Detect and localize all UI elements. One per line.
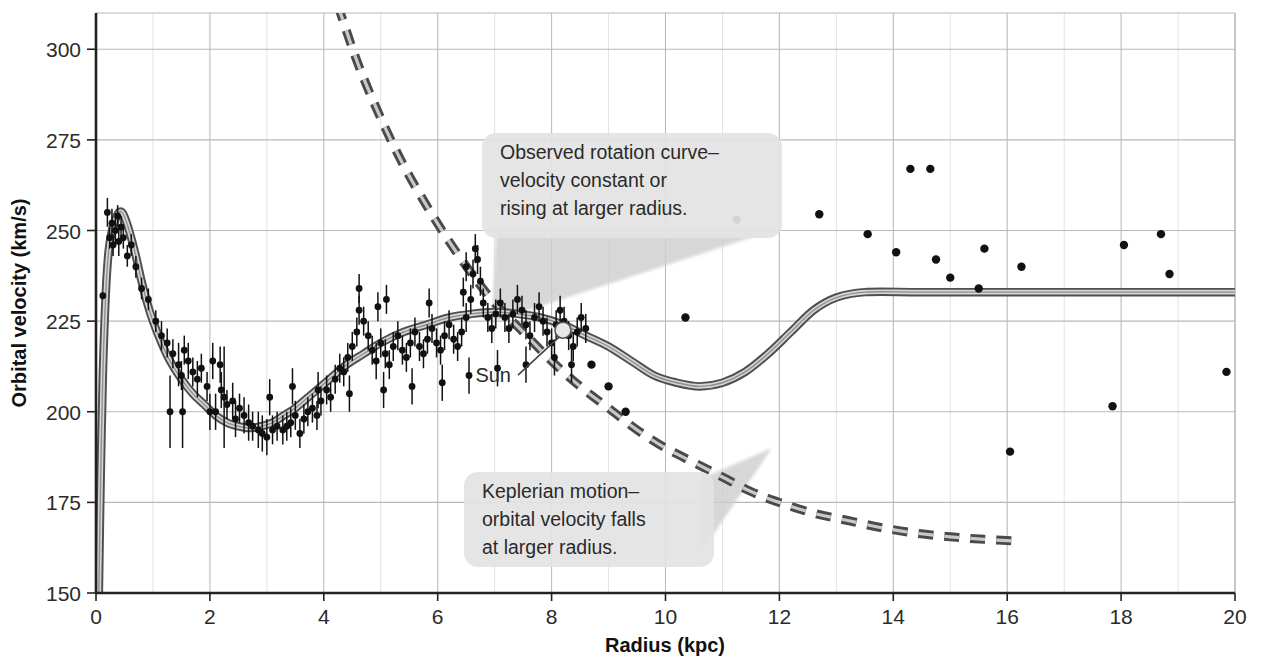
- data-point: [360, 318, 367, 325]
- data-point: [106, 234, 113, 241]
- data-point: [110, 242, 117, 249]
- sun-label: Sun: [475, 364, 511, 386]
- data-point: [178, 372, 185, 379]
- data-point: [241, 412, 248, 419]
- data-point: [314, 412, 321, 419]
- data-point: [236, 405, 243, 412]
- data-point: [570, 343, 577, 350]
- data-point: [344, 354, 351, 361]
- data-point: [185, 358, 192, 365]
- y-tick-label: 200: [46, 401, 81, 424]
- data-point: [377, 339, 384, 346]
- data-point: [315, 387, 322, 394]
- data-point: [340, 368, 347, 375]
- data-point: [263, 434, 270, 441]
- data-point: [386, 361, 393, 368]
- data-point: [582, 325, 589, 332]
- data-point: [480, 300, 487, 307]
- callout-line: velocity constant or: [500, 169, 667, 191]
- data-point: [470, 271, 477, 278]
- data-point: [926, 165, 934, 173]
- data-point: [474, 256, 481, 263]
- data-point: [309, 405, 316, 412]
- chart-canvas: Sun 02468101214161820 150175200225250275…: [0, 0, 1262, 667]
- x-axis-title: Radius (kpc): [605, 634, 725, 656]
- data-point: [420, 350, 427, 357]
- data-point: [621, 408, 629, 416]
- data-point: [128, 242, 135, 249]
- data-point: [292, 412, 299, 419]
- data-point: [460, 289, 467, 296]
- x-tick-label: 12: [768, 605, 791, 628]
- x-tick-label: 10: [654, 605, 677, 628]
- x-tick-label: 20: [1223, 605, 1246, 628]
- data-point: [519, 307, 526, 314]
- data-point: [463, 314, 470, 321]
- data-point: [356, 307, 363, 314]
- y-tick-label: 150: [46, 582, 81, 605]
- data-point: [980, 244, 988, 252]
- y-tick-label: 275: [46, 129, 81, 152]
- data-point: [815, 210, 823, 218]
- data-point: [407, 339, 414, 346]
- data-point: [587, 360, 595, 368]
- data-point: [332, 376, 339, 383]
- data-point: [296, 430, 303, 437]
- data-point: [527, 332, 534, 339]
- data-point: [604, 382, 612, 390]
- data-point: [232, 416, 239, 423]
- data-point: [551, 354, 558, 361]
- data-point: [536, 303, 543, 310]
- data-point: [175, 361, 182, 368]
- data-point: [194, 376, 201, 383]
- data-point: [152, 318, 159, 325]
- data-point: [209, 358, 216, 365]
- data-point: [463, 263, 470, 270]
- data-point: [323, 387, 330, 394]
- data-point: [382, 350, 389, 357]
- data-point: [399, 347, 406, 354]
- data-point: [274, 423, 281, 430]
- data-point: [181, 347, 188, 354]
- data-point: [179, 408, 186, 415]
- data-point: [394, 332, 401, 339]
- data-point: [426, 300, 433, 307]
- data-point: [863, 230, 871, 238]
- data-point: [488, 325, 495, 332]
- data-point: [99, 292, 106, 299]
- data-point: [120, 234, 127, 241]
- x-tick-label: 2: [204, 605, 216, 628]
- data-point: [224, 401, 231, 408]
- data-point: [327, 394, 334, 401]
- data-point: [169, 350, 176, 357]
- data-point: [189, 368, 196, 375]
- data-point: [349, 343, 356, 350]
- data-point: [145, 296, 152, 303]
- data-point: [544, 329, 551, 336]
- x-tick-label: 16: [996, 605, 1019, 628]
- data-point: [906, 165, 914, 173]
- data-point: [229, 397, 236, 404]
- data-point: [416, 343, 423, 350]
- data-point: [217, 361, 224, 368]
- y-tick-label: 250: [46, 220, 81, 243]
- data-point: [369, 347, 376, 354]
- callout-line: orbital velocity falls: [482, 508, 646, 530]
- keplerian-callout: Keplerian motion–orbital velocity fallsa…: [464, 472, 714, 567]
- data-point: [429, 325, 436, 332]
- data-point: [380, 387, 387, 394]
- y-axis-title: Orbital velocity (km/s): [8, 199, 30, 408]
- data-point: [249, 423, 256, 430]
- data-point: [477, 278, 484, 285]
- data-point: [212, 408, 219, 415]
- data-point: [118, 223, 125, 230]
- data-point: [346, 390, 353, 397]
- data-point: [441, 332, 448, 339]
- data-point: [946, 273, 954, 281]
- data-point: [932, 255, 940, 263]
- data-point: [574, 329, 581, 336]
- data-point: [454, 343, 461, 350]
- data-point: [375, 303, 382, 310]
- data-point: [158, 332, 165, 339]
- data-point: [433, 339, 440, 346]
